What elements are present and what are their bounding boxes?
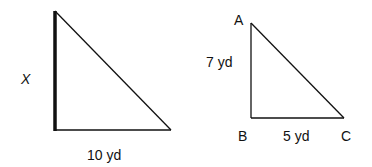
left-triangle: X 10 yd	[20, 11, 171, 163]
left-triangle-hypotenuse	[55, 11, 171, 130]
vertex-c-label: C	[341, 128, 351, 144]
vertex-a-label: A	[234, 12, 244, 28]
side-ab-label: 7 yd	[206, 54, 232, 70]
left-base-label: 10 yd	[87, 147, 121, 163]
side-bc-label: 5 yd	[283, 128, 309, 144]
similar-triangles-diagram: X 10 yd A B C 7 yd 5 yd	[0, 0, 372, 167]
vertex-b-label: B	[238, 128, 247, 144]
right-triangle-hypotenuse	[251, 23, 344, 118]
right-triangle: A B C 7 yd 5 yd	[206, 12, 351, 144]
unknown-side-label: X	[20, 71, 31, 87]
